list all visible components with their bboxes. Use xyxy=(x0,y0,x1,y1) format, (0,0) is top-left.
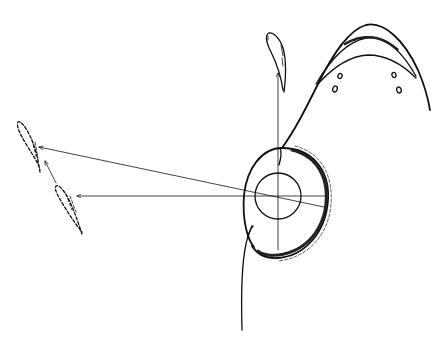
left-lower-droplet xyxy=(55,186,82,234)
sketch-diagram xyxy=(0,0,447,348)
arrow-short-diagonal xyxy=(45,161,56,183)
diagram-canvas xyxy=(0,0,447,348)
parabolic-arc xyxy=(282,24,430,148)
left-upper-droplet xyxy=(17,122,40,172)
small-ovals xyxy=(332,72,402,94)
top-droplet xyxy=(267,33,286,92)
